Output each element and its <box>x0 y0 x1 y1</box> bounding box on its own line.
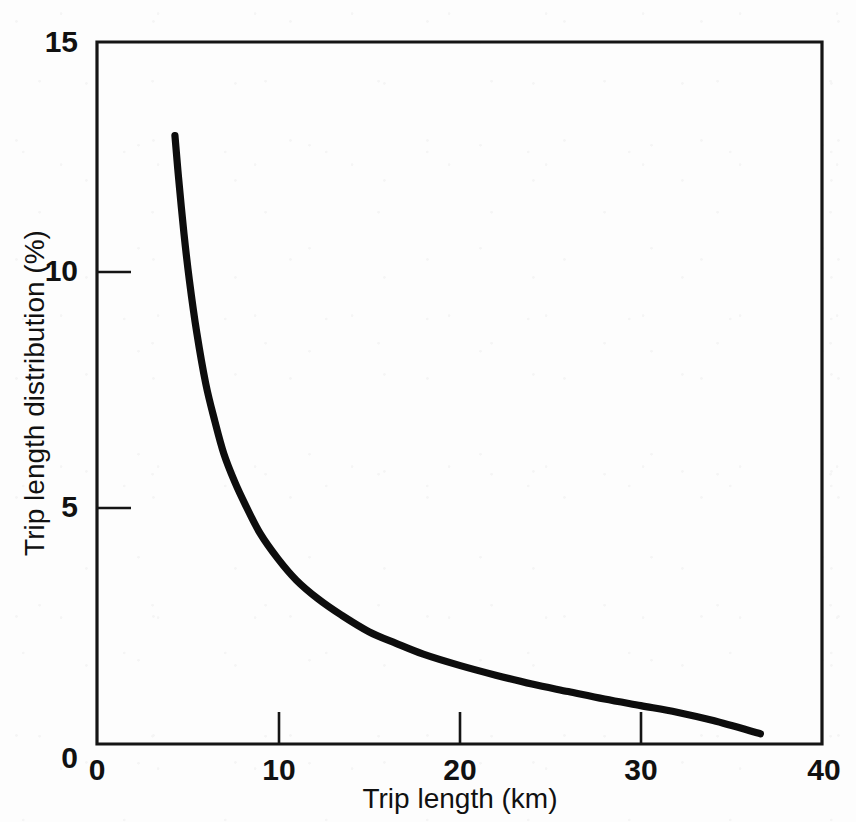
figure-canvas: 15 10 5 0 0 10 20 30 40 Trip length (km)… <box>0 0 856 822</box>
trip-length-distribution-curve <box>175 136 760 734</box>
y-tick-label-5: 5 <box>61 490 78 523</box>
x-tick-label-40: 40 <box>807 753 840 786</box>
x-axis-title: Trip length (km) <box>362 783 557 814</box>
chart-plot: 15 10 5 0 0 10 20 30 40 Trip length (km)… <box>0 0 856 822</box>
x-tick-label-0: 0 <box>89 753 106 786</box>
x-tick-label-10: 10 <box>262 753 295 786</box>
y-tick-label-0: 0 <box>61 741 78 774</box>
y-axis-title: Trip length distribution (%) <box>19 230 50 556</box>
x-tick-label-20: 20 <box>443 753 476 786</box>
x-tick-label-30: 30 <box>624 753 657 786</box>
y-tick-label-15: 15 <box>45 25 78 58</box>
